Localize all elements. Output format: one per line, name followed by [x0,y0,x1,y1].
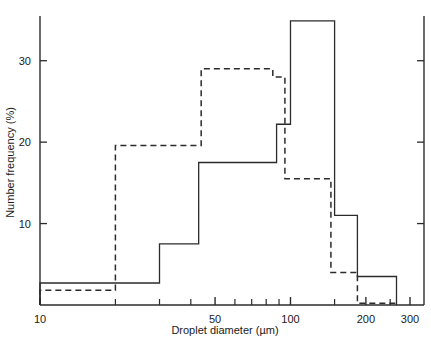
y-tick-label-20: 20 [19,136,31,148]
y-tick-label-10: 10 [19,218,31,230]
y-tick-label-30: 30 [19,55,31,67]
x-tick-label-300: 300 [401,313,419,325]
histogram-series-solid [40,21,397,305]
chart-figure: 1020301050100200300Droplet diameter (µm)… [0,0,431,340]
x-tick-label-200: 200 [357,313,375,325]
y-axis-title: Number frequency (%) [4,107,16,218]
x-axis-title: Droplet diameter (µm) [171,324,278,336]
histogram-plot: 1020301050100200300Droplet diameter (µm)… [0,0,431,340]
x-tick-label-10: 10 [34,313,46,325]
x-tick-label-100: 100 [281,313,299,325]
histogram-series-dashed [40,69,397,305]
